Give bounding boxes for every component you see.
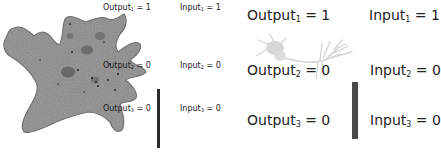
right-scale-bar [352,82,358,139]
right-input-2-label: Input2 = 0 [370,62,441,83]
left-input-2-label: Input2 = 0 [180,61,221,72]
left-output-2-label: Output2 = 0 [103,61,151,72]
right-input-3-label: Input3 = 0 [370,112,441,133]
left-input-1-label: Input1 = 1 [180,3,221,14]
right-output-1-label: Output1 = 1 [247,7,330,28]
left-input-3-label: Input3 = 0 [180,104,221,115]
vacuole [61,67,75,78]
right-output-2-label: Output2 = 0 [247,62,330,83]
vacuole [81,46,93,55]
right-input-1-label: Input1 = 1 [369,7,440,28]
left-scale-bar [157,89,160,148]
vacuole [67,33,74,39]
right-output-3-label: Output3 = 0 [247,112,330,133]
left-output-1-label: Output1 = 1 [103,3,151,14]
vacuole [95,32,105,40]
left-output-3-label: Output3 = 0 [103,104,151,115]
